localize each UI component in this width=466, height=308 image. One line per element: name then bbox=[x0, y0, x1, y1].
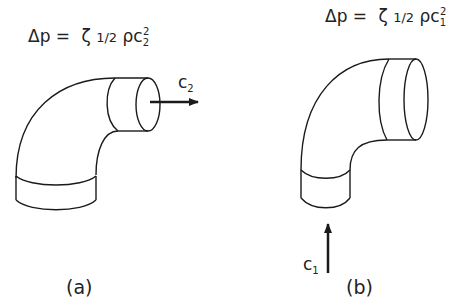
elbow-a bbox=[16, 78, 160, 210]
elbow-a-outlet-ellipse bbox=[136, 78, 160, 131]
elbow-a-outer-curve bbox=[16, 78, 115, 178]
elbow-a-bottom-ring-bottom bbox=[16, 200, 96, 210]
elbow-b-bottom-ring-top bbox=[301, 170, 350, 178]
elbow-b-outer-curve bbox=[301, 59, 389, 170]
elbow-b bbox=[301, 59, 428, 208]
elbow-b-seam bbox=[379, 59, 389, 140]
elbow-a-seam bbox=[107, 78, 118, 131]
elbow-a-bottom-ring-top bbox=[16, 176, 96, 185]
elbow-b-bottom-ring-bottom bbox=[301, 198, 350, 208]
elbow-b-outlet-ellipse bbox=[404, 59, 428, 140]
elbow-b-inner-curve bbox=[350, 140, 387, 170]
diagram-canvas bbox=[0, 0, 466, 308]
elbow-a-inner-curve bbox=[96, 131, 118, 175]
